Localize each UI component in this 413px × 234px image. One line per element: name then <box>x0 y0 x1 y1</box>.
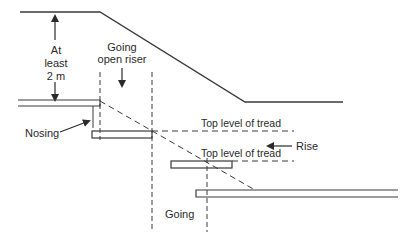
pitch-line <box>100 101 255 190</box>
going-label: Going <box>165 208 194 220</box>
headroom-label-line1: At <box>51 44 61 56</box>
stair-diagram: At least 2 m Going open riser Nosing Top… <box>0 0 413 234</box>
going-open-riser-label-line1: Going <box>107 41 136 53</box>
headroom-label-line2: least <box>44 57 67 69</box>
top-level-label-2: Top level of tread <box>201 147 281 159</box>
nosing-arrow <box>60 121 89 132</box>
rise-label: Rise <box>296 140 318 152</box>
ceiling-line <box>20 12 343 102</box>
nosing-label: Nosing <box>25 127 59 139</box>
headroom-label-line3: 2 m <box>47 70 65 82</box>
tread-4 <box>196 190 398 197</box>
tread-1 <box>18 100 100 106</box>
tread-3 <box>171 161 232 168</box>
going-open-riser-label-line2: open riser <box>98 53 147 65</box>
tread-2 <box>92 131 152 138</box>
top-level-label-1: Top level of tread <box>201 117 281 129</box>
